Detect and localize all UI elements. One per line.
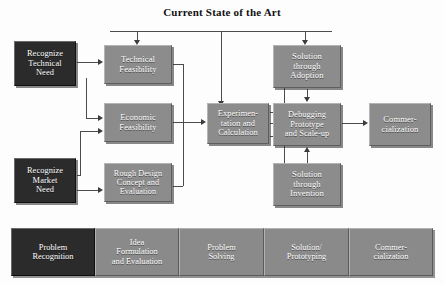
link-market-need-riser-foot	[77, 175, 81, 176]
node-label: Commer- cialization	[382, 115, 419, 134]
node-label: Technical Feasibility	[119, 55, 156, 74]
phase-bar: Problem Recognition Idea Formulation and…	[11, 228, 433, 276]
phase-label: Commer- cialization	[374, 243, 409, 262]
phase-label: Idea Formulation and Evaluation	[112, 238, 162, 266]
merge-bus-upper	[183, 64, 184, 122]
node-solution-through-adoption[interactable]: Solution through Adoption	[273, 45, 341, 88]
node-label: Rough Design Concept and Evaluation	[114, 169, 162, 197]
diagram-canvas: Current State of the Art Recognize Techn…	[0, 0, 444, 285]
link-market-need-to-economic-feasibility	[80, 131, 99, 132]
link-rough-design-out	[173, 186, 183, 187]
arrow-invention-to-debugging	[304, 147, 310, 152]
node-experimentation-calculation[interactable]: Experimen- tation and Calculation	[207, 103, 269, 144]
node-label: Solution through Adoption	[290, 52, 323, 81]
node-label: Economic Feasibility	[119, 113, 156, 132]
phase-problem-recognition[interactable]: Problem Recognition	[11, 228, 95, 276]
phase-label: Problem Solving	[207, 243, 235, 262]
phase-problem-solving[interactable]: Problem Solving	[179, 228, 264, 276]
link-invention-to-debugging	[307, 152, 308, 163]
node-label: Recognize Market Need	[27, 166, 63, 194]
arrow-adoption-to-debugging	[304, 97, 310, 102]
phase-commercialization[interactable]: Commer- cialization	[349, 228, 433, 276]
link-market-need-to-rough-design	[77, 190, 99, 191]
node-economic-feasibility[interactable]: Economic Feasibility	[104, 103, 172, 142]
node-rough-design-concept[interactable]: Rough Design Concept and Evaluation	[104, 163, 172, 202]
link-economic-feasibility-to-experimentation	[173, 122, 202, 123]
node-label: Solution through Invention	[290, 170, 324, 199]
arrow-into-economic-feasibility-lower	[98, 128, 103, 134]
arrow-into-commercialization	[363, 120, 368, 126]
bus-drop-experimentation	[221, 31, 222, 102]
link-technical-need-to-technical-feasibility	[77, 62, 99, 63]
node-technical-feasibility[interactable]: Technical Feasibility	[104, 45, 172, 84]
link-technical-need-riser	[86, 78, 87, 118]
arrow-into-experimentation	[201, 119, 206, 125]
node-recognize-market-need[interactable]: Recognize Market Need	[14, 158, 76, 203]
node-label: Debugging Prototype and Scale-up	[285, 110, 330, 138]
phase-idea-formulation[interactable]: Idea Formulation and Evaluation	[95, 228, 179, 276]
arrow-into-technical-feasibility	[98, 59, 103, 65]
link-technical-feasibility-out	[173, 64, 183, 65]
node-label: Experimen- tation and Calculation	[218, 109, 259, 137]
link-debugging-to-commercialization	[342, 123, 364, 124]
node-recognize-technical-need[interactable]: Recognize Technical Need	[14, 41, 76, 86]
diagram-title: Current State of the Art	[0, 6, 444, 18]
node-solution-through-invention[interactable]: Solution through Invention	[273, 163, 341, 206]
arrow-into-rough-design	[98, 187, 103, 193]
phase-label: Solution/ Prototyping	[287, 243, 327, 262]
merge-bus-lower	[183, 122, 184, 186]
node-debugging-prototype[interactable]: Debugging Prototype and Scale-up	[273, 103, 341, 146]
phase-label: Problem Recognition	[33, 243, 74, 262]
arrow-into-economic-feasibility-upper	[98, 115, 103, 121]
phase-solution-prototyping[interactable]: Solution/ Prototyping	[264, 228, 349, 276]
link-market-need-riser	[80, 131, 81, 175]
node-label: Recognize Technical Need	[27, 49, 63, 77]
node-commercialization[interactable]: Commer- cialization	[369, 103, 431, 146]
